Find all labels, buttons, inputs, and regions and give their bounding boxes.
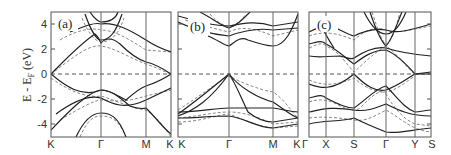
panel-c: (c) Γ X S Γ Y S xyxy=(302,12,436,150)
band-structure-figure: E - EF (eV) 4 2 0 -2 -4 xyxy=(0,0,451,155)
kpoint-label: Γ xyxy=(98,138,104,150)
panel-label-b: (b) xyxy=(190,19,205,34)
kpoint-label: K xyxy=(178,138,186,150)
kpoint-label: Γ xyxy=(383,138,389,150)
y-axis-label: E - EF (eV) xyxy=(20,48,36,102)
ytick-0: 0 xyxy=(41,68,47,80)
kpoint-label: Y xyxy=(411,138,419,150)
kpoint-label: K xyxy=(47,138,55,150)
kpoint-label: S xyxy=(428,138,435,150)
kpoint-label: K xyxy=(293,138,301,150)
kpoint-label: M xyxy=(268,138,277,150)
ytick-neg4: -4 xyxy=(37,118,47,130)
kpoint-label: Γ xyxy=(302,138,308,150)
ytick-2: 2 xyxy=(41,43,47,55)
panel-label-c: (c) xyxy=(317,17,331,32)
ytick-4: 4 xyxy=(41,18,47,30)
panel-a: (a) K Γ M K xyxy=(47,12,174,150)
kpoint-label: S xyxy=(350,138,357,150)
panel-b: (b) K Γ M K xyxy=(178,12,301,150)
ytick-neg2: -2 xyxy=(37,93,47,105)
kpoint-label: Γ xyxy=(226,138,232,150)
y-tick-labels: 4 2 0 -2 -4 xyxy=(37,18,47,130)
kpoint-label: X xyxy=(322,138,330,150)
kpoint-label: K xyxy=(166,138,174,150)
panel-label-a: (a) xyxy=(58,16,72,31)
kpoint-label: M xyxy=(141,138,150,150)
